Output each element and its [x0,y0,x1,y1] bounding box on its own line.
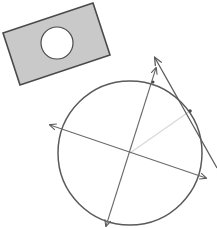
axis-intersection-point [152,81,155,84]
tangent-line [155,58,217,168]
circle-construction [50,58,217,226]
horizontal-axis [50,125,206,178]
radius-line [130,111,190,153]
tangent-point [188,109,192,113]
plate-hole [41,27,73,59]
geometry-diagram [0,0,217,228]
plate-with-hole [3,3,110,85]
